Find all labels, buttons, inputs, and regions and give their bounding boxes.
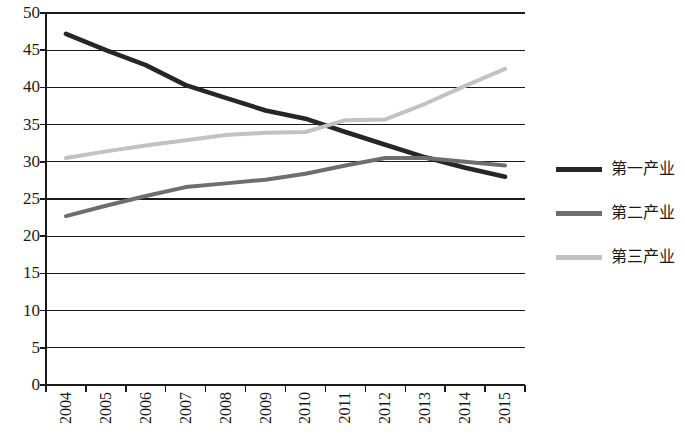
legend-item[interactable]: 第一产业 xyxy=(556,155,675,183)
legend-item[interactable]: 第二产业 xyxy=(556,199,675,227)
x-tick-label: 2013 xyxy=(417,392,433,424)
x-tick-label: 2007 xyxy=(178,392,194,424)
y-tick-label: 20 xyxy=(2,227,40,244)
plot-area xyxy=(46,13,525,385)
legend-label: 第二产业 xyxy=(611,204,675,222)
x-tick-label: 2008 xyxy=(218,392,234,424)
legend-swatch-icon xyxy=(556,255,602,260)
x-tick-label: 2005 xyxy=(98,392,114,424)
y-tick-label: 10 xyxy=(2,302,40,319)
y-tick-label: 50 xyxy=(2,4,40,21)
y-tick-label: 25 xyxy=(2,190,40,207)
x-tick-label: 2004 xyxy=(58,392,74,424)
x-axis-ticks xyxy=(46,385,525,392)
x-tick-label: 2010 xyxy=(297,392,313,424)
legend-swatch-icon xyxy=(556,211,602,216)
y-tick-label: 40 xyxy=(2,78,40,95)
x-tick-label: 2009 xyxy=(258,392,274,424)
x-tick-label: 2011 xyxy=(337,392,353,423)
series-line xyxy=(66,158,505,216)
axis-lines xyxy=(40,13,46,385)
x-axis: 2004200520062007200820092010201120122013… xyxy=(46,392,525,446)
gridlines xyxy=(46,13,525,385)
y-tick-label: 35 xyxy=(2,116,40,133)
y-tick-label: 0 xyxy=(2,376,40,393)
legend-swatch-icon xyxy=(556,167,602,172)
legend-item[interactable]: 第三产业 xyxy=(556,243,675,271)
chart-legend: 第一产业第二产业第三产业 xyxy=(556,155,685,275)
legend-label: 第一产业 xyxy=(611,160,675,178)
y-tick-label: 5 xyxy=(2,339,40,356)
plot-svg xyxy=(46,13,525,385)
y-tick-label: 15 xyxy=(2,264,40,281)
x-tick-label: 2012 xyxy=(377,392,393,424)
series-line xyxy=(66,34,505,177)
x-tick-label: 2014 xyxy=(457,392,473,424)
x-tick-label: 2015 xyxy=(497,392,513,424)
x-tick-label: 2006 xyxy=(138,392,154,424)
y-tick-label: 45 xyxy=(2,41,40,58)
line-chart: 50454035302520151050 2004200520062007200… xyxy=(0,0,685,446)
legend-label: 第三产业 xyxy=(611,248,675,266)
y-axis: 50454035302520151050 xyxy=(0,0,40,400)
y-tick-label: 30 xyxy=(2,153,40,170)
